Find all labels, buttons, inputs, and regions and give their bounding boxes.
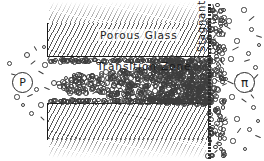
molecule-dot	[136, 89, 142, 95]
molecule-dot	[106, 91, 112, 97]
molecule-dot	[219, 18, 224, 23]
molecule-dot	[219, 31, 225, 37]
molecule-dot	[117, 99, 123, 105]
molecule-dot	[42, 45, 47, 50]
molecule-dash	[222, 83, 227, 86]
molecule-dot	[70, 98, 75, 103]
membrane-face-tick	[208, 48, 211, 50]
molecule-dot	[222, 98, 227, 103]
membrane-face-tick	[208, 7, 211, 9]
membrane-face-tick	[208, 45, 211, 47]
membrane-face-tick	[208, 133, 211, 135]
hatch-bleed-top	[49, 2, 206, 24]
molecule-dash	[27, 94, 33, 97]
molecule-dot	[243, 147, 248, 152]
membrane-face-tick	[208, 55, 211, 57]
symbol-pressure-p: P	[12, 72, 33, 93]
molecule-dot	[135, 76, 140, 81]
molecule-dot	[34, 87, 39, 92]
membrane-face-tick	[208, 11, 211, 13]
molecule-dot	[14, 94, 19, 99]
molecule-dot	[214, 68, 220, 74]
molecule-dot	[212, 10, 218, 16]
molecule-dash	[256, 35, 262, 38]
molecule-dot	[51, 98, 56, 103]
molecule-dash	[40, 116, 44, 120]
molecule-dash	[30, 60, 35, 64]
membrane-face-tick	[208, 96, 211, 98]
molecule-dot	[212, 128, 217, 133]
membrane-face-tick	[208, 31, 211, 33]
molecule-dot	[143, 84, 148, 89]
molecule-dot	[221, 105, 226, 110]
membrane-face-tick	[208, 62, 211, 64]
molecule-dot	[215, 3, 219, 7]
porous-glass-lower-block	[47, 103, 209, 140]
molecule-dot	[96, 98, 101, 103]
molecule-dot	[213, 94, 219, 100]
membrane-face-tick	[208, 150, 211, 152]
membrane-face-tick	[208, 41, 211, 43]
membrane-face-tick	[208, 137, 211, 139]
molecule-dot	[257, 43, 262, 48]
molecule-dash	[251, 94, 255, 98]
molecule-dot	[202, 88, 207, 93]
molecule-dot	[228, 56, 233, 61]
molecule-dot	[42, 62, 47, 67]
membrane-face-tick	[208, 126, 211, 128]
molecule-dot	[213, 145, 217, 149]
membrane-face-tick	[208, 72, 211, 74]
molecule-dot	[218, 9, 223, 14]
membrane-face-tick	[208, 109, 211, 111]
molecule-dot	[222, 47, 226, 51]
molecule-dot	[253, 65, 258, 70]
molecule-dash	[237, 128, 241, 133]
molecule-dot	[256, 119, 261, 124]
molecule-dot	[101, 98, 106, 103]
molecule-dash	[241, 98, 246, 102]
membrane-face-tick	[208, 4, 211, 6]
molecule-dash	[225, 25, 230, 29]
molecule-dot	[230, 138, 235, 143]
membrane-face-tick	[208, 35, 211, 37]
molecule-dash	[38, 71, 44, 75]
membrane-face-tick	[208, 28, 211, 30]
molecule-dot	[75, 76, 81, 82]
membrane-face-tick	[208, 24, 211, 26]
molecule-dot	[142, 75, 147, 80]
membrane-face-tick	[208, 120, 211, 122]
molecule-dot	[187, 87, 193, 93]
membrane-face-tick	[208, 92, 211, 94]
membrane-face-tick	[208, 21, 211, 23]
molecule-dot	[229, 94, 234, 99]
molecule-dot	[211, 86, 216, 91]
molecule-dot	[115, 92, 120, 97]
molecule-dot	[7, 61, 12, 66]
label-stagnant-film: Stagnant Film	[196, 0, 207, 52]
molecule-dot	[60, 58, 65, 63]
molecule-dash	[255, 135, 261, 138]
membrane-face-tick	[208, 86, 211, 88]
molecule-dot	[234, 38, 239, 43]
molecule-dot	[21, 103, 26, 108]
molecule-dot	[241, 7, 246, 12]
membrane-face-tick	[208, 143, 211, 145]
molecule-dot	[247, 127, 252, 132]
membrane-face-tick	[208, 116, 211, 118]
molecule-dot	[70, 57, 75, 62]
membrane-face-tick	[208, 79, 211, 81]
molecule-dot	[81, 59, 86, 64]
molecule-dot	[249, 27, 254, 32]
membrane-face-tick	[208, 113, 211, 115]
molecule-dot	[112, 98, 117, 103]
molecule-dot	[111, 83, 117, 89]
molecule-dash	[215, 149, 218, 152]
membrane-face-tick	[208, 75, 211, 77]
membrane-face-tick	[208, 14, 211, 16]
molecule-dash	[227, 81, 234, 85]
molecule-dot	[226, 18, 231, 23]
molecule-dot	[51, 80, 57, 86]
molecule-dot	[187, 100, 192, 105]
membrane-face-tick	[208, 18, 211, 20]
membrane-face-tick	[208, 58, 211, 60]
